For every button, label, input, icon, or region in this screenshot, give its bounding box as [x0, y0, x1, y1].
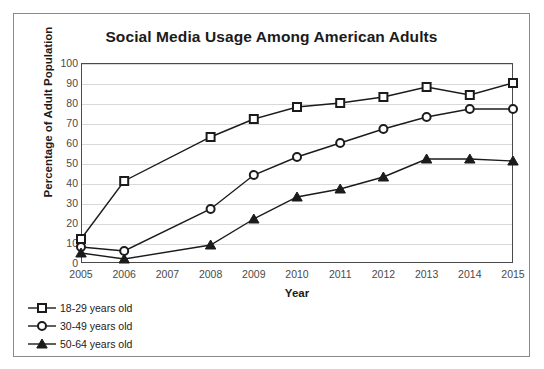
data-point-marker [250, 171, 258, 179]
legend-marker-icon [26, 301, 58, 315]
x-axis-tick-labels: 2005200620072008200920102011201220132014… [81, 268, 513, 284]
data-point-marker [379, 125, 387, 133]
data-point-marker [250, 115, 258, 123]
x-tick-label: 2007 [156, 268, 179, 280]
plot-wrapper [81, 63, 513, 263]
chart-figure-frame: Social Media Usage Among American Adults… [13, 13, 530, 357]
legend-marker-icon [26, 319, 58, 333]
data-point-marker [249, 214, 259, 223]
series-circle-open [77, 105, 517, 255]
series-line [81, 109, 513, 251]
data-point-marker [336, 139, 344, 147]
x-tick-label: 2013 [415, 268, 438, 280]
data-point-marker [509, 105, 517, 113]
legend-marker-icon [26, 337, 58, 351]
data-point-marker [378, 172, 388, 181]
y-tick-label: 50 [38, 157, 78, 169]
legend-item-1[interactable]: 18-29 years old [26, 299, 132, 317]
x-tick-label: 2010 [285, 268, 308, 280]
y-axis-tick-labels: 0102030405060708090100 [34, 63, 78, 263]
data-point-marker [466, 91, 474, 99]
data-point-marker [207, 205, 215, 213]
data-point-marker [509, 79, 517, 87]
x-tick-label: 2015 [501, 268, 524, 280]
series-line [81, 159, 513, 259]
legend-item-label: 50-64 years old [60, 338, 132, 350]
series-layer [81, 63, 513, 263]
x-tick-label: 2005 [69, 268, 92, 280]
data-point-marker [293, 103, 301, 111]
legend-item-2[interactable]: 30-49 years old [26, 317, 132, 335]
data-point-marker [466, 105, 474, 113]
y-tick-label: 80 [38, 97, 78, 109]
legend-item-3[interactable]: 50-64 years old [26, 335, 132, 353]
y-tick-label: 60 [38, 137, 78, 149]
x-axis-title: Year [81, 287, 513, 299]
y-tick-label: 100 [38, 57, 78, 69]
x-tick-label: 2011 [329, 268, 352, 280]
x-tick-label: 2006 [113, 268, 136, 280]
y-tick-label: 40 [38, 177, 78, 189]
data-point-marker [423, 113, 431, 121]
chart-legend: 18-29 years old30-49 years old50-64 year… [26, 299, 132, 353]
data-point-marker [205, 240, 215, 249]
data-point-marker [207, 133, 215, 141]
data-point-marker [423, 83, 431, 91]
data-point-marker [38, 304, 46, 312]
x-tick-label: 2008 [199, 268, 222, 280]
x-tick-label: 2012 [372, 268, 395, 280]
y-tick-label: 30 [38, 197, 78, 209]
data-point-marker [336, 99, 344, 107]
legend-item-label: 30-49 years old [60, 320, 132, 332]
data-point-marker [120, 177, 128, 185]
y-tick-label: 20 [38, 217, 78, 229]
y-tick-label: 10 [38, 237, 78, 249]
series-triangle-filled [76, 154, 518, 263]
x-tick-label: 2014 [458, 268, 481, 280]
y-tick-label: 90 [38, 77, 78, 89]
x-tick-label: 2009 [242, 268, 265, 280]
data-point-marker [293, 153, 301, 161]
chart-title: Social Media Usage Among American Adults [14, 28, 529, 46]
data-point-marker [379, 93, 387, 101]
y-tick-label: 70 [38, 117, 78, 129]
legend-item-label: 18-29 years old [60, 302, 132, 314]
data-point-marker [38, 322, 46, 330]
data-point-marker [77, 235, 85, 243]
